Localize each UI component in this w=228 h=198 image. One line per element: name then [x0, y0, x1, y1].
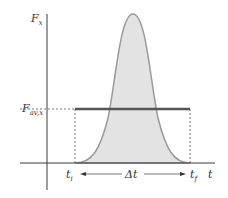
- delta-t-label: Δt: [124, 168, 138, 181]
- t-final-label: tf: [190, 168, 198, 183]
- force-pulse-curve: [75, 14, 190, 163]
- x-axis-label: t: [208, 168, 213, 181]
- t-initial-label: ti: [66, 168, 73, 183]
- y-axis-label: Fx: [30, 12, 43, 27]
- impulse-diagram: Fx Fav,x t ti tf Δt: [0, 0, 228, 198]
- arrowhead-left-icon: [80, 172, 86, 176]
- arrowhead-right-icon: [180, 172, 186, 176]
- avg-force-label: Fav,x: [21, 102, 43, 117]
